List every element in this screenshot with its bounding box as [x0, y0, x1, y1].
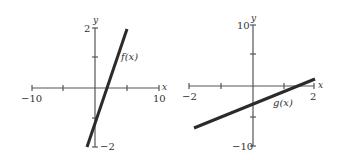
- curve-label-g: g(x): [273, 97, 293, 108]
- x-min-label: −10: [21, 93, 42, 104]
- x-max-label: 2: [310, 91, 316, 102]
- plot-f: y x 2 −2 −10 10 f(x): [21, 15, 167, 152]
- curve-label-f: f(x): [120, 51, 138, 62]
- x-axis-label: x: [318, 80, 323, 90]
- x-axis-label: x: [162, 82, 167, 92]
- x-min-label: −2: [182, 91, 197, 102]
- figure: y x 2 −2 −10 10 f(x) y x 10 −10 −2 2 g(x…: [0, 0, 338, 160]
- y-min-label: −10: [232, 141, 253, 152]
- y-axis-label: y: [92, 15, 99, 25]
- plot-g: y x 10 −10 −2 2 g(x): [182, 13, 323, 152]
- y-max-label: 2: [84, 23, 90, 34]
- y-axis-label: y: [250, 13, 257, 23]
- y-min-label: −2: [100, 141, 115, 152]
- x-max-label: 10: [153, 93, 166, 104]
- y-max-label: 10: [237, 20, 250, 31]
